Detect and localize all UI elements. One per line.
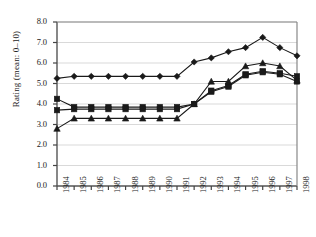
line-chart: Rating (mean: 0–10) 0.01.02.03.04.05.06.… [0, 0, 316, 237]
x-tick-label: 1987 [112, 176, 122, 193]
x-tick-label: 1990 [164, 176, 174, 193]
data-point-diamond [260, 34, 266, 40]
x-tick-label: 1985 [78, 176, 88, 193]
data-point-square [157, 106, 162, 111]
data-point-triangle [54, 125, 60, 131]
x-tick-label: 1986 [95, 176, 105, 193]
y-tick-label: 7.0 [21, 37, 47, 47]
data-point-diamond [122, 73, 128, 79]
data-point-diamond [294, 53, 300, 59]
x-tick-label: 1994 [232, 176, 242, 193]
data-point-square [54, 107, 59, 112]
data-point-square [140, 106, 145, 111]
data-point-square [209, 89, 214, 94]
data-point-square [89, 106, 94, 111]
data-point-square [106, 106, 111, 111]
x-tick-label: 1989 [147, 176, 157, 193]
data-point-diamond [105, 73, 111, 79]
y-tick-label: 6.0 [21, 57, 47, 67]
data-point-square [123, 106, 128, 111]
plot-area [0, 0, 316, 237]
data-point-diamond [277, 45, 283, 51]
y-tick-label: 2.0 [21, 139, 47, 149]
data-point-square [54, 96, 59, 101]
y-tick-label: 8.0 [21, 16, 47, 26]
x-tick-label: 1993 [215, 176, 225, 193]
data-point-diamond [140, 73, 146, 79]
data-point-square [226, 84, 231, 89]
data-point-diamond [242, 45, 248, 51]
x-tick-label: 1988 [130, 176, 140, 193]
data-point-diamond [54, 75, 60, 81]
data-point-diamond [157, 73, 163, 79]
x-tick-label: 1998 [301, 176, 311, 193]
y-tick-label: 1.0 [21, 160, 47, 170]
y-tick-label: 5.0 [21, 78, 47, 88]
data-point-diamond [208, 55, 214, 61]
data-point-square [243, 73, 248, 78]
data-point-square [174, 106, 179, 111]
y-tick-label: 0.0 [21, 180, 47, 190]
data-point-diamond [88, 73, 94, 79]
x-tick-label: 1995 [250, 176, 260, 193]
data-point-diamond [225, 49, 231, 55]
data-point-diamond [71, 73, 77, 79]
x-tick-label: 1992 [198, 176, 208, 193]
data-point-square [260, 70, 265, 75]
y-tick-label: 3.0 [21, 119, 47, 129]
x-tick-label: 1984 [61, 176, 71, 193]
x-tick-label: 1997 [284, 176, 294, 193]
y-tick-label: 4.0 [21, 98, 47, 108]
x-tick-label: 1991 [181, 176, 191, 193]
x-tick-label: 1996 [267, 176, 277, 193]
data-point-square [71, 106, 76, 111]
data-point-square [277, 72, 282, 77]
